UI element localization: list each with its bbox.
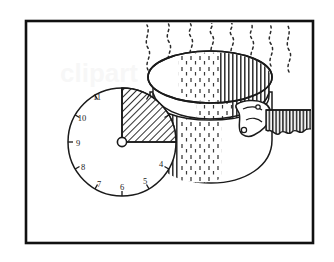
- pot-handle-assembly: [236, 100, 316, 136]
- steam-wisp: [146, 25, 149, 70]
- clock-numeral-8: 8: [81, 162, 85, 172]
- pot-rim-stipple: [178, 52, 220, 102]
- clock-numeral-6: 6: [120, 182, 124, 192]
- bracket-rivet: [241, 127, 246, 132]
- steam-wisp: [210, 22, 213, 55]
- clock-numeral-5: 5: [143, 176, 147, 186]
- background-watermark: clipart: [60, 58, 138, 88]
- steam-wisp: [250, 23, 253, 60]
- clock-numeral-10: 10: [78, 113, 87, 123]
- steam-wisp: [287, 26, 290, 72]
- clock-numeral-7: 7: [97, 179, 101, 189]
- illustration-canvas: clipart: [0, 0, 334, 262]
- clock-face: 11 10 9 8 7 6 5 4: [68, 88, 176, 196]
- svg-text:clipart: clipart: [60, 58, 138, 88]
- clock-numeral-9: 9: [76, 138, 80, 148]
- pot-handle: [266, 110, 316, 134]
- steam-wisp: [269, 24, 272, 66]
- line-art-illustration: clipart: [0, 0, 334, 262]
- clock-numeral-11: 11: [93, 92, 101, 102]
- bracket-pivot: [256, 105, 260, 109]
- steam-wisp: [230, 22, 233, 56]
- clock-center-hub: [117, 137, 126, 146]
